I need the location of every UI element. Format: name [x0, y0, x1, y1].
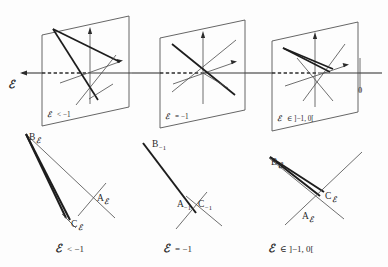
- triangle-2-caption-relation: = −1: [175, 244, 192, 254]
- triangle-3-label-C: C: [325, 191, 331, 201]
- triangle-1-label-B: B: [29, 132, 35, 142]
- axis-parameter-label: ℰ: [8, 78, 16, 90]
- plane-2-caption: ℰ = −1: [165, 112, 189, 121]
- triangle-2-label-A: A: [177, 199, 184, 209]
- triangle-3-caption: ℰ ∈ ]−1, 0[: [268, 242, 313, 254]
- triangle-1-label-A: A: [97, 193, 104, 203]
- triangle-2-caption: ℰ = −1: [163, 242, 192, 254]
- triangle-1-label-C: C: [71, 219, 77, 229]
- figure-root: ℰ 0 ℰ < −1: [0, 0, 388, 267]
- triangle-1-caption-symbol: ℰ: [55, 242, 63, 254]
- triangle-2-label-C-sub: −1: [205, 204, 212, 211]
- triangle-3-label-A: A: [302, 211, 309, 221]
- origin-label: 0: [358, 86, 362, 95]
- triangle-3-caption-symbol: ℰ: [268, 242, 276, 254]
- plane-1-caption-relation: < −1: [57, 111, 71, 119]
- figure-background: [0, 0, 388, 267]
- triangle-2-label-C: C: [198, 199, 204, 209]
- triangle-2-label-B: B: [152, 139, 158, 149]
- triangle-3-label-B: B: [271, 157, 277, 167]
- triangle-1-caption-relation: < −1: [67, 244, 84, 254]
- triangle-2-label-B-sub: −1: [159, 144, 166, 151]
- plane-1-caption: ℰ < −1: [47, 110, 71, 119]
- math-figure-svg: ℰ 0 ℰ < −1: [0, 0, 388, 267]
- triangle-2-label-A-sub: −1: [184, 204, 191, 211]
- triangle-2-caption-symbol: ℰ: [163, 242, 171, 254]
- triangle-3-caption-relation: ∈ ]−1, 0[: [280, 244, 313, 254]
- plane-3-caption-relation: ∈ ]−1, 0[: [287, 115, 314, 123]
- triangle-1-caption: ℰ < −1: [55, 242, 84, 254]
- plane-2-caption-relation: = −1: [175, 113, 189, 121]
